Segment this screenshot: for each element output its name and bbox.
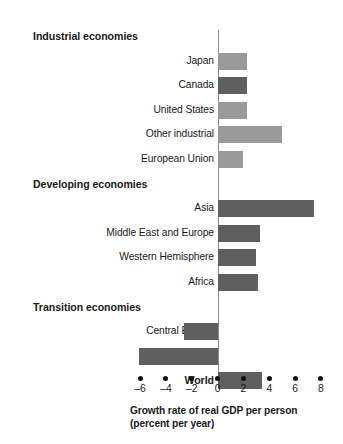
chart-row: Canada [0, 73, 343, 98]
row-plot [0, 221, 343, 246]
row-plot [0, 245, 343, 270]
row-plot [0, 270, 343, 295]
bar [218, 151, 244, 168]
row-plot [0, 196, 343, 221]
x-tick-label: 4 [256, 383, 282, 394]
bar [184, 323, 218, 340]
row-plot [0, 344, 343, 369]
bar [218, 53, 247, 70]
x-axis-title-line1: Growth rate of real GDP per person [130, 405, 297, 416]
chart-row: United States [0, 98, 343, 123]
x-tick-mark [215, 376, 220, 381]
bar [218, 200, 315, 217]
row-label: Transition economies [33, 295, 141, 320]
chart-row: Japan [0, 49, 343, 74]
x-tick-label: –4 [153, 383, 179, 394]
chart-row: Western Hemisphere [0, 245, 343, 270]
chart-row: Russia [0, 344, 343, 369]
x-tick-mark [293, 376, 298, 381]
x-axis-title: Growth rate of real GDP per person (perc… [130, 404, 343, 430]
chart-group-row: Transition economies [0, 295, 343, 320]
chart-row: Africa [0, 270, 343, 295]
x-tick-mark [189, 376, 194, 381]
x-tick-mark [267, 376, 272, 381]
x-tick-label: 2 [230, 383, 256, 394]
chart-row: European Union [0, 147, 343, 172]
row-plot [0, 122, 343, 147]
row-plot [0, 319, 343, 344]
bar-chart: Industrial economiesJapanCanadaUnited St… [0, 0, 343, 444]
bar [218, 249, 257, 266]
x-tick-label: 0 [205, 383, 231, 394]
bar [218, 126, 283, 143]
chart-row: Middle East and Europe [0, 221, 343, 246]
bar [218, 77, 247, 94]
x-tick-label: 8 [308, 383, 334, 394]
chart-rows: Industrial economiesJapanCanadaUnited St… [0, 24, 343, 393]
x-tick-label: 6 [282, 383, 308, 394]
row-plot [0, 73, 343, 98]
row-label: Industrial economies [33, 24, 138, 49]
row-plot [0, 147, 343, 172]
x-tick-mark [138, 376, 143, 381]
x-tick-mark [318, 376, 323, 381]
chart-row: Asia [0, 196, 343, 221]
x-tick-label: –6 [127, 383, 153, 394]
chart-group-row: Industrial economies [0, 24, 343, 49]
bar [218, 274, 258, 291]
x-tick-label: –2 [179, 383, 205, 394]
x-tick-mark [163, 376, 168, 381]
chart-row: Other industrial [0, 122, 343, 147]
bar [139, 348, 218, 365]
chart-group-row: Developing economies [0, 172, 343, 197]
row-plot [0, 49, 343, 74]
x-axis: –6–4–202468 [0, 376, 343, 406]
row-plot [0, 98, 343, 123]
x-axis-title-line2: (percent per year) [130, 417, 343, 430]
x-tick-mark [241, 376, 246, 381]
bar [218, 102, 247, 119]
bar [218, 225, 260, 242]
chart-row: Central Europe [0, 319, 343, 344]
row-label: Developing economies [33, 172, 147, 197]
